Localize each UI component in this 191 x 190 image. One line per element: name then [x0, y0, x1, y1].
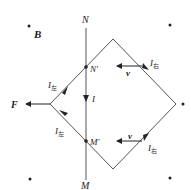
- field-dot-icon: [169, 24, 172, 27]
- contact-label-n-prime: N′: [89, 64, 99, 74]
- current-arrow-rod-icon: [83, 95, 89, 102]
- field-dot-icon: [169, 177, 172, 180]
- field-label-b: B: [33, 28, 41, 40]
- physics-diagram: B N M N′ M′ I F I左 I左 v I右 v I右: [0, 0, 191, 190]
- field-dot-icon: [28, 25, 31, 28]
- current-label-left-lower: I左: [54, 126, 64, 137]
- velocity-label-lower: v: [128, 131, 133, 141]
- conducting-loop: [50, 39, 176, 169]
- force-label: F: [10, 99, 18, 110]
- rod-current-label: I: [91, 94, 96, 104]
- current-label-left-upper: I左: [47, 80, 57, 91]
- contact-point-m-prime: [84, 139, 88, 143]
- current-label-right-upper: I右: [149, 58, 159, 70]
- contact-point-n-prime: [84, 65, 88, 69]
- rod-label-n: N: [81, 14, 90, 25]
- rod-label-m: M: [80, 180, 90, 190]
- field-dot-icon: [29, 178, 32, 181]
- current-arrow-right-upper-icon: [142, 63, 149, 70]
- magnetic-field-dots: [28, 24, 185, 181]
- contact-label-m-prime: M′: [89, 137, 100, 147]
- current-arrow-right-lower-icon: [143, 133, 149, 141]
- velocity-label-upper: v: [126, 68, 131, 78]
- current-label-right-lower: I右: [147, 143, 157, 155]
- field-dot-icon: [182, 103, 185, 106]
